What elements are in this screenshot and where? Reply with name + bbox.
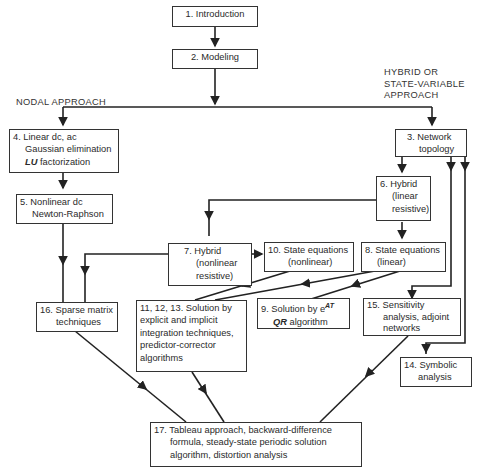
node-text: 14. Symbolic bbox=[404, 359, 468, 371]
node-text: resistive) bbox=[172, 270, 248, 282]
node-hybrid-nonlinear-resistive: 7. Hybrid (nonlinear resistive) bbox=[168, 243, 252, 286]
node-text: resistive) bbox=[380, 203, 427, 215]
node-nonlinear-dc: 5. Nonlinear dc Newton-Raphson bbox=[16, 194, 113, 224]
node-state-equations-nonlinear: 10. State equations (nonlinear) bbox=[264, 242, 354, 272]
node-text-eat: 9. Solution by eAT bbox=[261, 300, 346, 316]
hybrid-label-line-3: APPROACH bbox=[384, 90, 465, 102]
node-text: 5. Nonlinear dc bbox=[20, 196, 109, 208]
node-text: analysis bbox=[404, 371, 468, 383]
nodal-approach-label: NODAL APPROACH bbox=[16, 96, 106, 108]
node-text: algorithms bbox=[140, 352, 243, 364]
node-modeling: 2. Modeling bbox=[172, 49, 258, 69]
node-text: Gaussian elimination bbox=[13, 143, 115, 155]
node-text: networks bbox=[367, 323, 457, 335]
node-hybrid-linear-resistive: 6. Hybrid (linear resistive) bbox=[376, 176, 431, 221]
node-text: Newton-Raphson bbox=[20, 208, 109, 220]
node-text: factorization bbox=[37, 157, 90, 167]
node-text: 1. Introduction bbox=[176, 8, 254, 20]
node-text: algorithm bbox=[287, 317, 328, 327]
node-text: (linear) bbox=[365, 256, 442, 268]
node-text: 4. Linear dc, ac bbox=[13, 131, 115, 143]
node-text: topology bbox=[399, 143, 463, 155]
hybrid-label-line-2: STATE-VARIABLE bbox=[384, 79, 465, 91]
node-tableau-approach: 17. Tableau approach, backward-differenc… bbox=[150, 422, 362, 467]
node-text: (linear bbox=[380, 190, 427, 202]
node-text: 11, 12, 13. Solution by bbox=[140, 302, 243, 314]
hybrid-approach-label: HYBRID OR STATE-VARIABLE APPROACH bbox=[384, 67, 465, 102]
node-text: 6. Hybrid bbox=[380, 178, 427, 190]
node-network-topology: 3. Network topology bbox=[395, 129, 467, 157]
node-text: (nonlinear) bbox=[268, 256, 350, 268]
node-linear-dc-ac: 4. Linear dc, ac Gaussian elimination LU… bbox=[9, 129, 119, 173]
node-text: 16. Sparse matrix bbox=[40, 304, 114, 316]
node-sparse-matrix: 16. Sparse matrix techniques bbox=[36, 302, 118, 332]
qr-symbol: QR bbox=[273, 317, 287, 327]
node-text: 9. Solution by e bbox=[261, 304, 325, 314]
node-text: formula, steady-state periodic solution bbox=[154, 436, 358, 448]
node-text: 3. Network bbox=[399, 131, 463, 143]
node-text: 15. Sensitivity bbox=[367, 300, 457, 312]
node-text: techniques bbox=[40, 316, 114, 328]
exponent-at: AT bbox=[325, 302, 334, 309]
node-text: predictor-corrector bbox=[140, 339, 243, 351]
node-symbolic-analysis: 14. Symbolic analysis bbox=[400, 357, 472, 387]
node-text: explicit and implicit bbox=[140, 314, 243, 326]
node-text: (nonlinear bbox=[172, 257, 248, 269]
node-text: 10. State equations bbox=[268, 244, 350, 256]
node-integration-techniques: 11, 12, 13. Solution by explicit and imp… bbox=[136, 300, 247, 372]
node-text: analysis, adjoint bbox=[367, 312, 457, 324]
node-text: 17. Tableau approach, backward-differenc… bbox=[154, 424, 358, 436]
node-text-qr: QR algorithm bbox=[261, 316, 346, 328]
node-introduction: 1. Introduction bbox=[172, 6, 258, 27]
node-text: algorithm, distortion analysis bbox=[154, 449, 358, 461]
node-text: integration techniques, bbox=[140, 327, 243, 339]
node-text: 7. Hybrid bbox=[172, 245, 248, 257]
node-text: 8. State equations bbox=[365, 244, 442, 256]
node-solution-by-eat: 9. Solution by eAT QR algorithm bbox=[257, 298, 350, 329]
node-sensitivity-analysis: 15. Sensitivity analysis, adjoint networ… bbox=[363, 298, 461, 336]
node-text-lu: LU factorization bbox=[13, 156, 115, 168]
hybrid-label-line-1: HYBRID OR bbox=[384, 67, 465, 79]
lu-symbol: LU bbox=[25, 157, 37, 167]
node-text: 2. Modeling bbox=[176, 51, 254, 63]
node-state-equations-linear: 8. State equations (linear) bbox=[361, 242, 446, 272]
